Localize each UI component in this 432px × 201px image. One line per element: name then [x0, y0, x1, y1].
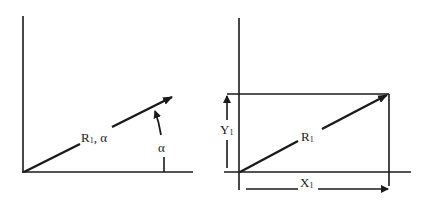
- vector-r1-arrow: [112, 97, 172, 127]
- vector-r1-label: R1, α: [81, 130, 107, 145]
- diagram-canvas: R1, α α R1 Y1 X1: [0, 0, 432, 201]
- vector-r1-arrow: [322, 95, 387, 129]
- vector-r1-label: R1: [301, 129, 314, 144]
- vector-r1-segment-a: [240, 141, 298, 172]
- vector-r1-segment-a: [24, 144, 80, 172]
- angle-arc-arrow: [155, 111, 161, 135]
- y-component-label: Y1: [220, 122, 233, 137]
- x-component-label: X1: [300, 175, 313, 190]
- polar-panel: R1, α α: [22, 16, 193, 173]
- rectangular-panel: R1 Y1 X1: [220, 18, 411, 190]
- angle-label: α: [158, 140, 165, 155]
